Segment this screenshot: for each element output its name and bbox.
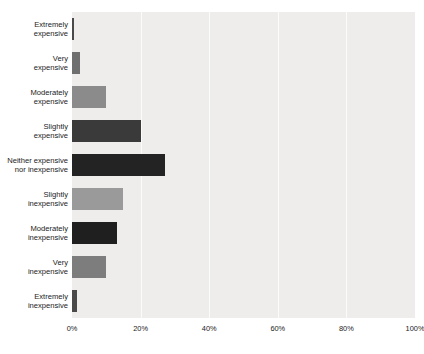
- category-label-line: expensive: [34, 63, 68, 72]
- category-label-line: Slightly: [44, 122, 68, 131]
- x-tick-label: 0%: [67, 324, 78, 333]
- category-label-line: Very: [53, 258, 68, 267]
- bar-row: [72, 114, 415, 148]
- category-label: Moderatelyinexpensive: [0, 216, 68, 250]
- category-label: Moderatelyexpensive: [0, 80, 68, 114]
- bar-row: [72, 46, 415, 80]
- category-axis-labels: ExtremelyexpensiveVeryexpensiveModeratel…: [0, 12, 68, 318]
- category-label: Neither expensivenor inexpensive: [0, 148, 68, 182]
- plot-area: [72, 12, 415, 318]
- category-label: Slightlyinexpensive: [0, 182, 68, 216]
- category-label-line: nor inexpensive: [15, 165, 68, 174]
- bar-row: [72, 12, 415, 46]
- category-label: Veryinexpensive: [0, 250, 68, 284]
- category-label-line: Neither expensive: [7, 156, 68, 165]
- bar[interactable]: [72, 52, 80, 74]
- x-axis: 0%20%40%60%80%100%: [72, 318, 415, 340]
- bar-row: [72, 284, 415, 318]
- x-tick-label: 40%: [202, 324, 217, 333]
- bar[interactable]: [72, 256, 106, 278]
- bar-row: [72, 80, 415, 114]
- category-label-line: Extremely: [34, 292, 68, 301]
- category-label-line: Very: [53, 54, 68, 63]
- category-label-line: inexpensive: [28, 199, 68, 208]
- bar[interactable]: [72, 222, 117, 244]
- x-tick-label: 80%: [339, 324, 354, 333]
- category-label-line: Slightly: [44, 190, 68, 199]
- category-label-line: inexpensive: [28, 233, 68, 242]
- bar[interactable]: [72, 86, 106, 108]
- x-tick-label: 20%: [133, 324, 148, 333]
- category-label-line: Moderately: [30, 88, 68, 97]
- bar-row: [72, 250, 415, 284]
- category-label-line: expensive: [34, 131, 68, 140]
- category-label: Extremelyinexpensive: [0, 284, 68, 318]
- bar[interactable]: [72, 188, 123, 210]
- category-label-line: inexpensive: [28, 301, 68, 310]
- bar-row: [72, 148, 415, 182]
- bar[interactable]: [72, 154, 165, 176]
- bar-row: [72, 216, 415, 250]
- bar[interactable]: [72, 18, 74, 40]
- category-label: Veryexpensive: [0, 46, 68, 80]
- bar[interactable]: [72, 120, 141, 142]
- bar[interactable]: [72, 290, 77, 312]
- category-label-line: Moderately: [30, 224, 68, 233]
- category-label: Extremelyexpensive: [0, 12, 68, 46]
- bar-row: [72, 182, 415, 216]
- category-label-line: expensive: [34, 29, 68, 38]
- x-tick-label: 60%: [270, 324, 285, 333]
- category-label-line: expensive: [34, 97, 68, 106]
- bars: [72, 12, 415, 318]
- category-label-line: Extremely: [34, 20, 68, 29]
- x-tick-label: 100%: [406, 324, 424, 333]
- category-label: Slightlyexpensive: [0, 114, 68, 148]
- category-label-line: inexpensive: [28, 267, 68, 276]
